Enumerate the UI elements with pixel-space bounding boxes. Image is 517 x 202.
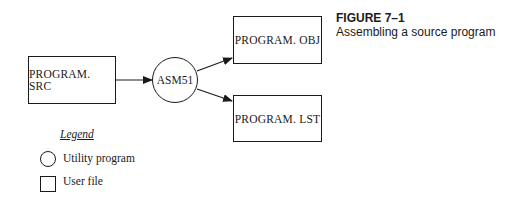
arrow-asm-to-obj bbox=[197, 58, 232, 71]
arrow-asm-to-lst bbox=[197, 89, 232, 101]
figure-title: FIGURE 7–1 bbox=[336, 11, 405, 25]
node-program-obj: PROGRAM. OBJ bbox=[233, 16, 322, 64]
legend-square-icon bbox=[40, 176, 56, 192]
node-program-src: PROGRAM. SRC bbox=[28, 56, 116, 104]
legend-circle-icon bbox=[40, 151, 56, 167]
figure-caption: Assembling a source program bbox=[336, 25, 495, 39]
legend-label-user-file: User file bbox=[63, 175, 103, 187]
node-program-lst: PROGRAM. LST bbox=[233, 95, 322, 142]
legend-title: Legend bbox=[60, 128, 94, 140]
legend-label-utility: Utility program bbox=[63, 152, 135, 164]
node-asm51: ASM51 bbox=[152, 57, 198, 103]
